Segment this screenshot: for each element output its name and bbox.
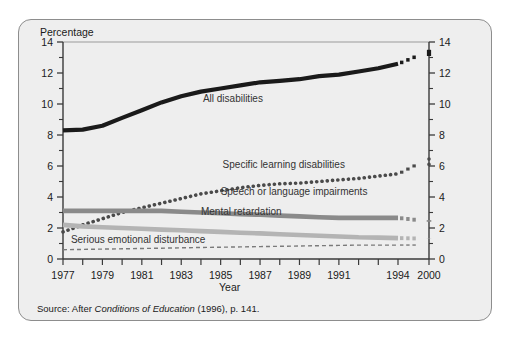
series-line-5 (63, 245, 398, 250)
y-tick-label-left: 10 (41, 98, 53, 110)
source-prefix: Source: After (37, 303, 95, 314)
y-tick-label-right: 12 (439, 67, 451, 79)
x-tick-label: 1987 (248, 269, 272, 281)
y-tick-label-right: 8 (439, 129, 445, 141)
source-title: Conditions of Education (95, 303, 195, 314)
x-tick-label: 1985 (209, 269, 233, 281)
y-tick-label-right: 14 (439, 36, 451, 48)
x-axis-title: Year (219, 281, 240, 293)
x-tick-label: 1977 (51, 269, 75, 281)
x-tick-label: 1991 (327, 269, 351, 281)
series-label-2: Specific learning disabilities (223, 159, 345, 170)
y-tick-label-left: 8 (47, 129, 53, 141)
source-note: Source: After Conditions of Education (1… (37, 303, 259, 314)
source-suffix: (1996), p. 141. (195, 303, 259, 314)
series-label-1: All disabilities (203, 93, 263, 104)
x-tick-label: 1981 (130, 269, 154, 281)
chart-plot: 0022446688101012121414197719791981198319… (18, 19, 492, 321)
series-line-2 (63, 174, 398, 232)
y-tick-label-left: 0 (47, 253, 53, 265)
y-tick-label-left: 4 (47, 191, 53, 203)
x-tick-label: 1983 (170, 269, 194, 281)
x-tick-label: 1989 (288, 269, 312, 281)
y-tick-label-left: 14 (41, 36, 53, 48)
y-tick-label-right: 4 (439, 191, 445, 203)
x-tick-label: 1979 (91, 269, 115, 281)
x-tick-label: 1994 (386, 269, 410, 281)
y-tick-label-left: 2 (47, 222, 53, 234)
y-tick-label-left: 12 (41, 67, 53, 79)
series-label-3: Speech or language impairments (221, 186, 368, 197)
y-tick-label-right: 10 (439, 98, 451, 110)
y-tick-label-right: 2 (439, 222, 445, 234)
y-tick-label-right: 6 (439, 160, 445, 172)
figure-container: Percentage 00224466881010121214141977197… (0, 0, 512, 343)
series-label-4: Mental retardation (201, 206, 282, 217)
series-label-5: Serious emotional disturbance (71, 234, 206, 245)
x-tick-label: 2000 (417, 269, 441, 281)
y-tick-label-right: 0 (439, 253, 445, 265)
y-tick-label-left: 6 (47, 160, 53, 172)
